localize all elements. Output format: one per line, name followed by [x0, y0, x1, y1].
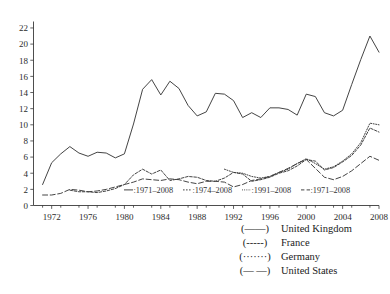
legend-key-uk: (——) — [232, 222, 278, 236]
legend-label-germany: Germany — [278, 250, 320, 264]
y-tick-label: 10 — [19, 120, 29, 130]
chart-legend: (——) United Kingdom (-----) France (····… — [232, 222, 352, 278]
x-tick-label: 1992 — [225, 212, 243, 222]
data-series-group: United Kingdom (1971-2008)France (1974-2… — [43, 36, 379, 195]
legend-item: (·······) Germany — [232, 250, 352, 264]
legend-item: (— —) United States — [232, 264, 352, 278]
y-tick-label: 14 — [19, 88, 29, 98]
legend-label-france: France — [278, 236, 310, 250]
legend-label-us: United States — [278, 264, 337, 278]
x-tick-label: 1972 — [43, 212, 61, 222]
chart-container: 0246810121416182022 19721976198019841988… — [0, 0, 390, 294]
legend-item: (——) United Kingdom — [232, 222, 352, 236]
y-tick-label: 2 — [24, 185, 29, 195]
inplot-legend-label-2: :1991–2008 — [252, 186, 292, 195]
y-tick-label: 22 — [19, 23, 28, 33]
y-tick-label: 20 — [19, 39, 29, 49]
legend-label-uk: United Kingdom — [278, 222, 352, 236]
x-axis: 1972197619801984198819921996200020042008 — [34, 206, 389, 222]
x-tick-label: 2008 — [370, 212, 389, 222]
inplot-legend-label-3: :1971–2008 — [311, 186, 351, 195]
x-tick-label: 2004 — [334, 212, 353, 222]
inplot-range-legend: :1971–2008:1974–2008:1991–2008:1971–2008 — [124, 186, 350, 195]
series-line-france: France (1974-2008) — [70, 128, 379, 193]
legend-key-france: (-----) — [232, 236, 278, 250]
x-tick-label: 1988 — [188, 212, 207, 222]
y-tick-label: 16 — [19, 72, 29, 82]
inplot-legend-label-1: :1974–2008 — [193, 186, 233, 195]
x-tick-label: 1976 — [79, 212, 98, 222]
inplot-legend-label-0: :1971–2008 — [134, 186, 174, 195]
x-tick-label: 1984 — [152, 212, 171, 222]
y-tick-label: 18 — [19, 56, 29, 66]
x-tick-label: 1980 — [115, 212, 134, 222]
y-tick-label: 6 — [24, 152, 29, 162]
y-axis: 0246810121416182022 — [19, 22, 34, 211]
legend-key-germany: (·······) — [232, 250, 278, 264]
x-tick-label: 1996 — [261, 212, 280, 222]
legend-item: (-----) France — [232, 236, 352, 250]
y-tick-label: 4 — [24, 169, 29, 179]
y-tick-label: 8 — [24, 136, 29, 146]
x-tick-label: 2000 — [297, 212, 316, 222]
y-tick-label: 0 — [24, 201, 29, 211]
y-tick-label: 12 — [19, 104, 28, 114]
series-line-united-kingdom: United Kingdom (1971-2008) — [43, 36, 379, 184]
legend-key-us: (— —) — [232, 264, 278, 278]
